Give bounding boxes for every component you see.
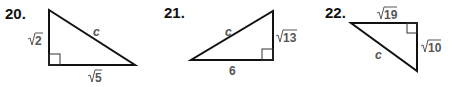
svg-text:10: 10 — [428, 41, 442, 55]
problem-number: 20. — [5, 5, 26, 22]
svg-text:5: 5 — [95, 71, 102, 85]
side-label-sqrt-2: 2 — [28, 33, 43, 48]
hypotenuse-label: c — [375, 48, 382, 62]
side-label-sqrt-13: 13 — [276, 30, 297, 45]
right-angle-marker — [262, 49, 273, 60]
problem-number: 21. — [164, 4, 185, 21]
right-angle-marker — [407, 23, 417, 33]
side-label-sqrt-5: 5 — [88, 70, 102, 85]
side-label-sqrt-19: 19 — [377, 7, 398, 22]
triangle — [49, 10, 135, 65]
right-angle-marker — [49, 54, 60, 65]
hypotenuse-label: c — [225, 25, 232, 39]
triangle — [191, 11, 273, 60]
svg-text:13: 13 — [283, 31, 297, 45]
side-label-6: 6 — [229, 64, 236, 78]
problem-22: 22. 19 10 c — [325, 4, 442, 71]
problem-number: 22. — [325, 4, 346, 21]
right-triangle-problems: 20. 2 c 5 21. c 13 6 22. 19 — [0, 0, 452, 87]
svg-text:2: 2 — [35, 34, 42, 48]
problem-21: 21. c 13 6 — [164, 4, 297, 78]
svg-text:19: 19 — [384, 8, 398, 22]
hypotenuse-label: c — [93, 25, 100, 39]
problem-20: 20. 2 c 5 — [5, 5, 135, 85]
side-label-sqrt-10: 10 — [421, 40, 442, 55]
